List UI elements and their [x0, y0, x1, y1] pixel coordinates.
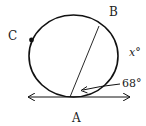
- circle: [29, 15, 118, 97]
- label-point-c: C: [8, 29, 17, 43]
- label-angle-68: 68°: [122, 77, 142, 90]
- chord-ab: [70, 26, 99, 97]
- geometry-diagram: B C A x° 68°: [0, 0, 146, 126]
- point-c-dot: [29, 38, 34, 43]
- label-angle-x: x°: [129, 46, 141, 59]
- label-point-b: B: [109, 5, 118, 19]
- label-point-a: A: [71, 111, 81, 125]
